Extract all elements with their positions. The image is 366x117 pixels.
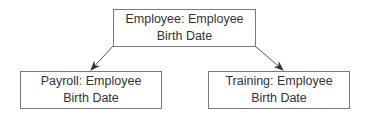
edge-employee-to-payroll [91,46,113,70]
node-employee: Employee: Employee Birth Date [113,9,256,47]
node-training: Training: Employee Birth Date [208,71,350,109]
node-payroll-line2: Birth Date [63,90,119,107]
node-payroll: Payroll: Employee Birth Date [20,71,162,109]
node-training-line2: Birth Date [251,90,307,107]
node-employee-line1: Employee: Employee [125,11,243,28]
node-payroll-line1: Payroll: Employee [41,73,142,90]
node-employee-line2: Birth Date [157,28,213,45]
edge-employee-to-training [255,46,283,70]
node-training-line1: Training: Employee [225,73,332,90]
